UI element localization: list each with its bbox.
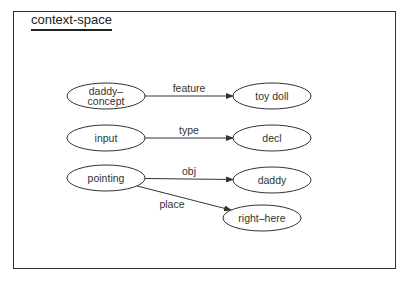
node-label: concept [88, 95, 125, 107]
node-label: toy doll [255, 90, 288, 102]
edge-obj [145, 178, 233, 179]
node-pointing: pointing [67, 165, 145, 191]
node-daddy-concept: daddy–concept [67, 83, 145, 109]
node-label: decl [262, 132, 281, 144]
node-input: input [67, 125, 145, 151]
edge-label: feature [173, 82, 206, 94]
edge-label: place [159, 198, 184, 210]
semantic-network: featuretypeobjplace daddy–concepttoy dol… [0, 0, 409, 283]
node-label: input [95, 132, 118, 144]
node-daddy: daddy [233, 167, 311, 193]
node-toy-doll: toy doll [233, 83, 311, 109]
node-label: right–here [238, 212, 285, 224]
node-decl: decl [233, 125, 311, 151]
edge-label: type [179, 124, 199, 136]
node-label: daddy [258, 174, 287, 186]
edge-label: obj [182, 165, 196, 177]
node-label: pointing [88, 172, 125, 184]
node-right-here: right–here [223, 205, 301, 231]
